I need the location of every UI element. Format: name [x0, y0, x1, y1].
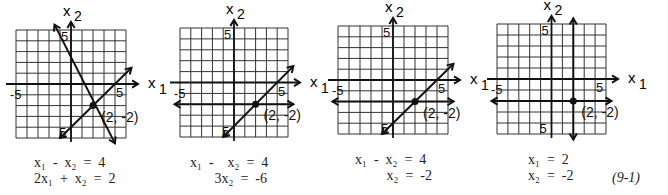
y-axis-label: x [544, 0, 552, 13]
solution-point [90, 102, 97, 109]
svg-text:1: 1 [159, 81, 167, 97]
x-axis-label: x [310, 73, 318, 90]
tick-label-x-neg: -5 [174, 86, 186, 101]
equation-system-2: x₁ - x₂ = 4 3x₂ = -6 [190, 155, 268, 187]
figure-number: (9-1) [612, 170, 640, 186]
x-axis-label: x [148, 74, 156, 91]
solution-label: (2, -2) [101, 109, 138, 125]
equation: x₁ - x₂ = 4 [34, 155, 116, 171]
tick-label-x-pos: 5 [596, 80, 603, 95]
tick-label-x-neg: -5 [10, 87, 22, 102]
tick-label-y-pos: 5 [542, 23, 549, 38]
svg-text:2: 2 [74, 8, 82, 24]
equation: x₂ = -2 [355, 168, 432, 184]
x-axis-label: x [628, 69, 636, 86]
solution-label: (2, -2) [581, 104, 618, 120]
panel-2: x1x2-5555(2, -2) [170, 0, 329, 141]
svg-text:2: 2 [396, 4, 404, 20]
solution-label: (2, -2) [264, 107, 301, 123]
tick-label-y-pos: 5 [383, 25, 390, 40]
tick-label-y-neg: 5 [540, 121, 547, 136]
equation-system-4: x₁ = 2x₂ = -2 [528, 152, 573, 184]
tick-label-y-pos: 5 [61, 29, 68, 44]
equation: x₁ - x₂ = 4 [190, 155, 268, 171]
svg-text:1: 1 [321, 80, 329, 96]
tick-label-x-neg: -5 [332, 83, 344, 98]
panel-3: x1x2-5555(2, -2) [328, 0, 489, 138]
y-axis-label: x [63, 2, 71, 19]
equation-system-1: x₁ - x₂ = 42x₁ + x₂ = 2 [34, 155, 116, 187]
equation-system-3: x₁ - x₂ = 4 x₂ = -2 [355, 152, 432, 184]
equation: x₂ = -2 [528, 168, 573, 184]
svg-text:2: 2 [555, 2, 563, 18]
equation: 2x₁ + x₂ = 2 [34, 171, 116, 187]
solution-label: (2, -2) [423, 105, 460, 121]
tick-label-x-pos: 5 [116, 85, 123, 100]
equation: x₁ - x₂ = 4 [355, 152, 432, 168]
equation: x₁ = 2 [528, 152, 573, 168]
tick-label-x-pos: 5 [438, 81, 445, 96]
x-axis-label: x [470, 70, 478, 87]
solution-point [570, 98, 577, 105]
y-axis-label: x [385, 0, 393, 15]
equation: 3x₂ = -6 [190, 171, 268, 187]
tick-label-y-pos: 5 [224, 27, 231, 42]
y-axis-label: x [226, 0, 234, 17]
panel-1: x1x2-5555(2, -2) [6, 2, 167, 143]
tick-label-x-pos: 5 [278, 84, 285, 99]
panel-4: x1x2-5555(2, -2) [487, 0, 647, 140]
svg-text:2: 2 [237, 6, 245, 22]
svg-text:1: 1 [639, 76, 647, 92]
solution-point [252, 101, 259, 108]
tick-label-x-neg: -5 [491, 82, 503, 97]
solution-point [412, 98, 419, 105]
